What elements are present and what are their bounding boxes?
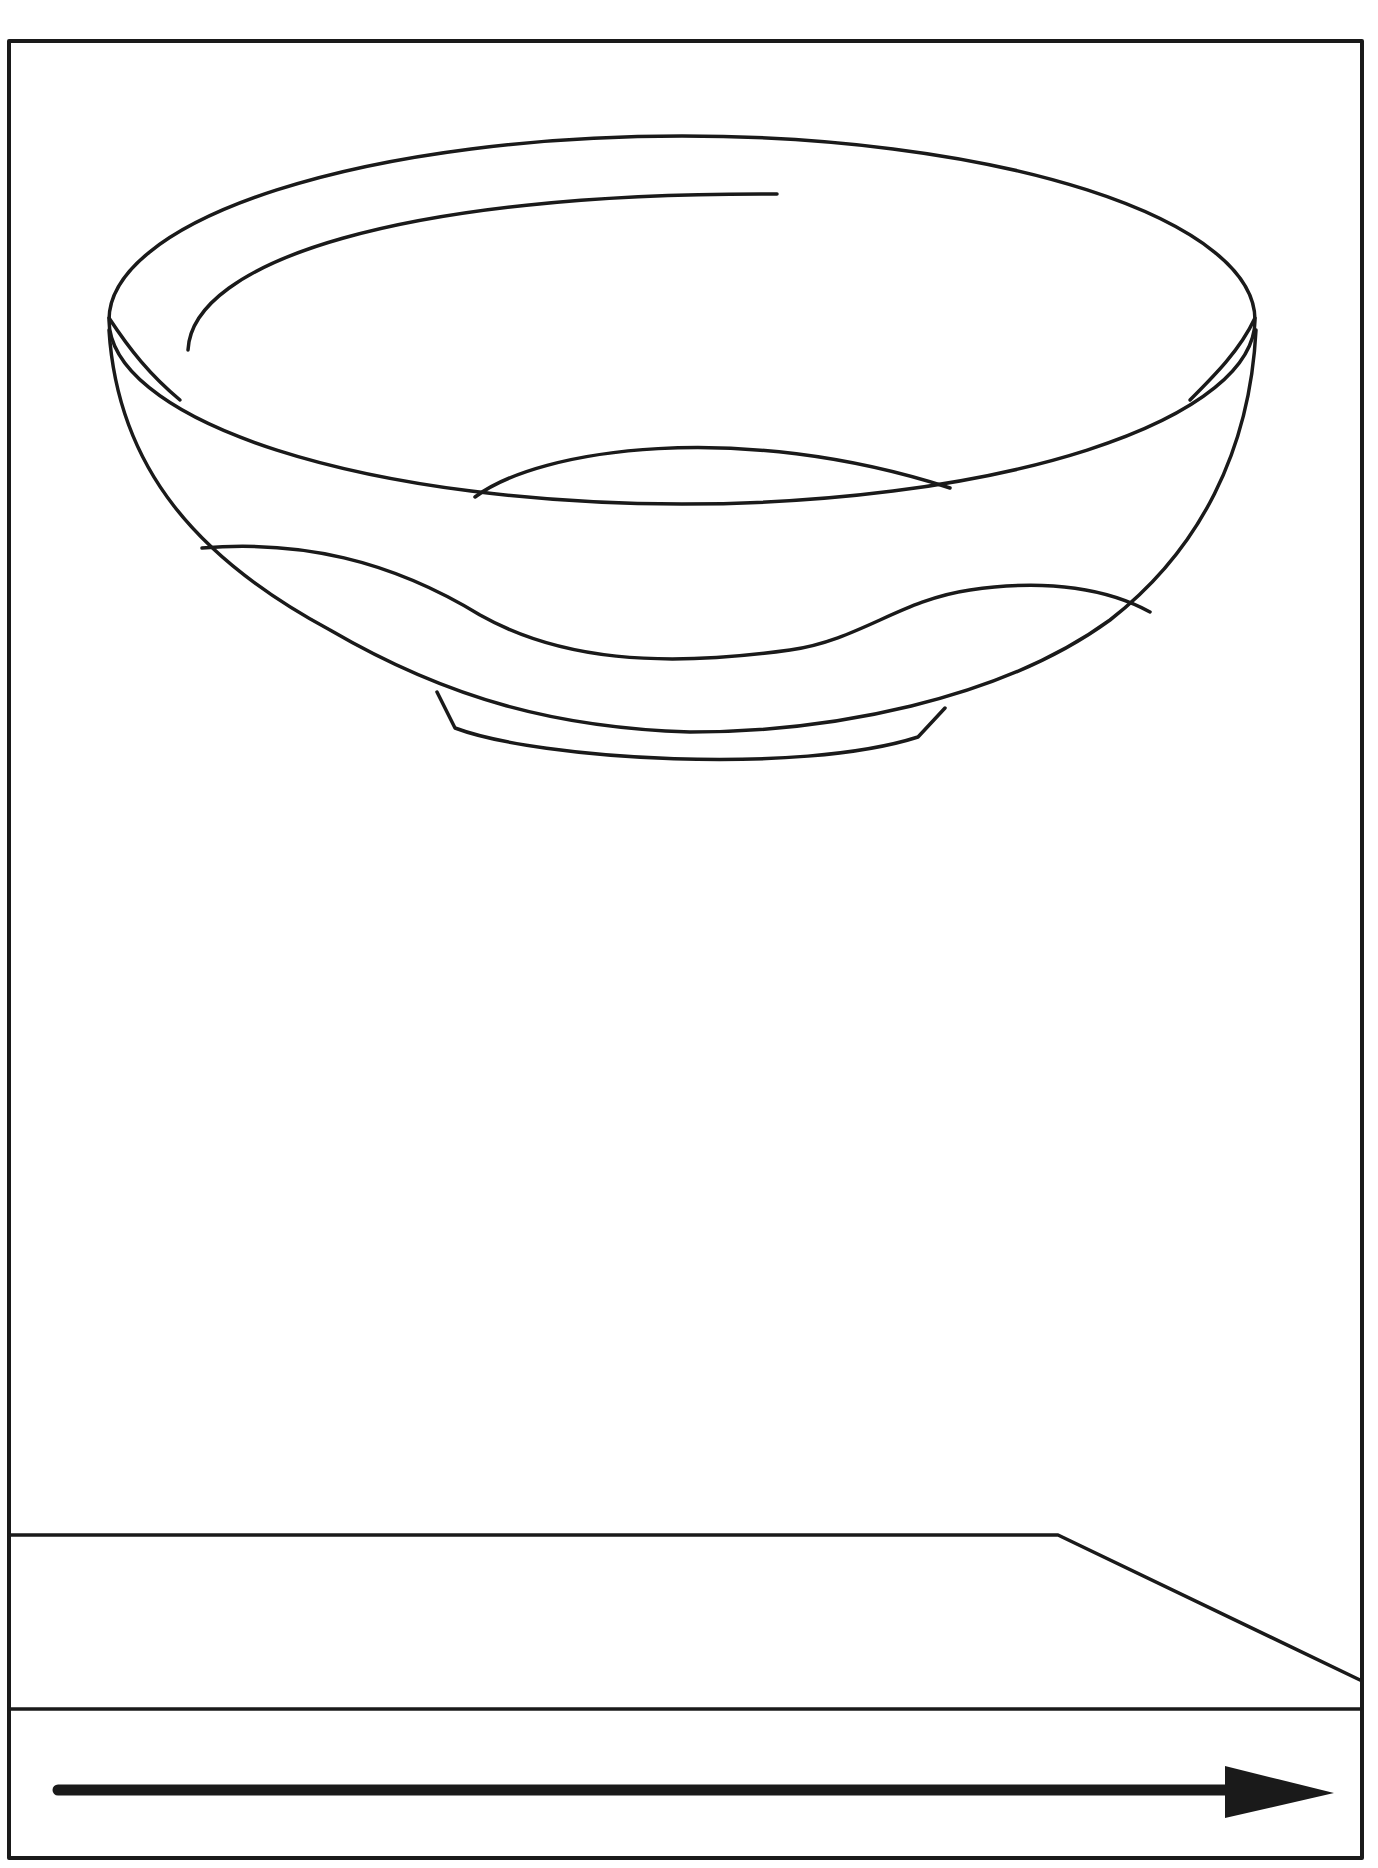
bowl-inner-floor [475, 448, 950, 497]
surface-top-edge [10, 1535, 1360, 1680]
bowl-wave-band [202, 546, 1150, 659]
arrow-right-icon [58, 1766, 1334, 1818]
bowl-foot [437, 692, 945, 760]
bowl-lip-left [109, 318, 180, 400]
bowl-lip-right [1190, 318, 1255, 400]
bowl [109, 136, 1256, 760]
arrow-head [1225, 1766, 1334, 1818]
bowl-inner-highlight [188, 194, 777, 350]
table-surface [10, 1535, 1360, 1709]
bowl-body [109, 330, 1256, 732]
diagram-figure: Line drawing of a bowl suspended above a… [0, 0, 1378, 1868]
